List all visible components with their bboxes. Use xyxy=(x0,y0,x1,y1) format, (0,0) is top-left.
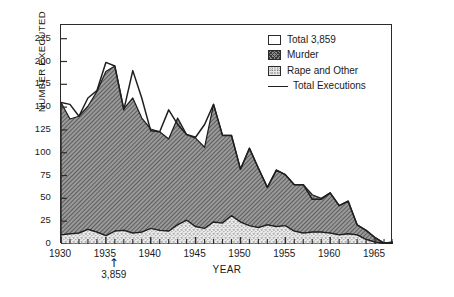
legend-swatch-murder xyxy=(268,50,281,60)
legend-swatch-total-executions-line xyxy=(268,86,288,87)
x-tick-label: 1950 xyxy=(217,248,261,259)
legend-label-total: Total 3,859 xyxy=(287,35,336,45)
y-tick-label: 125 xyxy=(0,124,51,134)
annotation-label: 3,859 xyxy=(79,268,149,281)
legend-label-total-executions: Total Executions xyxy=(293,81,366,91)
up-arrow-icon: ↑ xyxy=(79,258,149,268)
y-tick-label: 50 xyxy=(0,192,51,202)
legend-item-rape-and-other: Rape and Other xyxy=(268,63,366,79)
legend-label-rape-and-other: Rape and Other xyxy=(287,66,358,76)
y-tick-label: 175 xyxy=(0,78,51,88)
x-tick-label: 1945 xyxy=(173,248,217,259)
y-tick-label: 75 xyxy=(0,170,51,180)
legend-item-total-executions: Total Executions xyxy=(268,79,366,95)
x-tick-label: 1960 xyxy=(307,248,351,259)
y-axis-title: NUMBER EXECUTED xyxy=(36,0,47,142)
x-axis-title: YEAR xyxy=(0,264,454,275)
y-tick-label: 100 xyxy=(0,147,51,157)
y-tick-label: 25 xyxy=(0,215,51,225)
x-tick-label: 1965 xyxy=(352,248,396,259)
x-tick-label: 1930 xyxy=(38,248,82,259)
y-tick-label: 150 xyxy=(0,101,51,111)
executions-area-chart: NUMBER EXECUTED 025507510012515017520022… xyxy=(0,0,454,297)
y-tick-label: 225 xyxy=(0,33,51,43)
y-tick-label: 0 xyxy=(0,238,51,248)
legend-swatch-rape-and-other xyxy=(268,66,281,76)
chart-legend: Total 3,859 Murder Rape and Other Total … xyxy=(268,32,366,94)
legend-item-total: Total 3,859 xyxy=(268,32,366,48)
annotation-3859: ↑ 3,859 xyxy=(79,258,149,281)
legend-swatch-total xyxy=(268,35,281,45)
legend-item-murder: Murder xyxy=(268,48,366,64)
legend-label-murder: Murder xyxy=(287,50,319,60)
x-tick-label: 1955 xyxy=(262,248,306,259)
y-tick-label: 200 xyxy=(0,56,51,66)
